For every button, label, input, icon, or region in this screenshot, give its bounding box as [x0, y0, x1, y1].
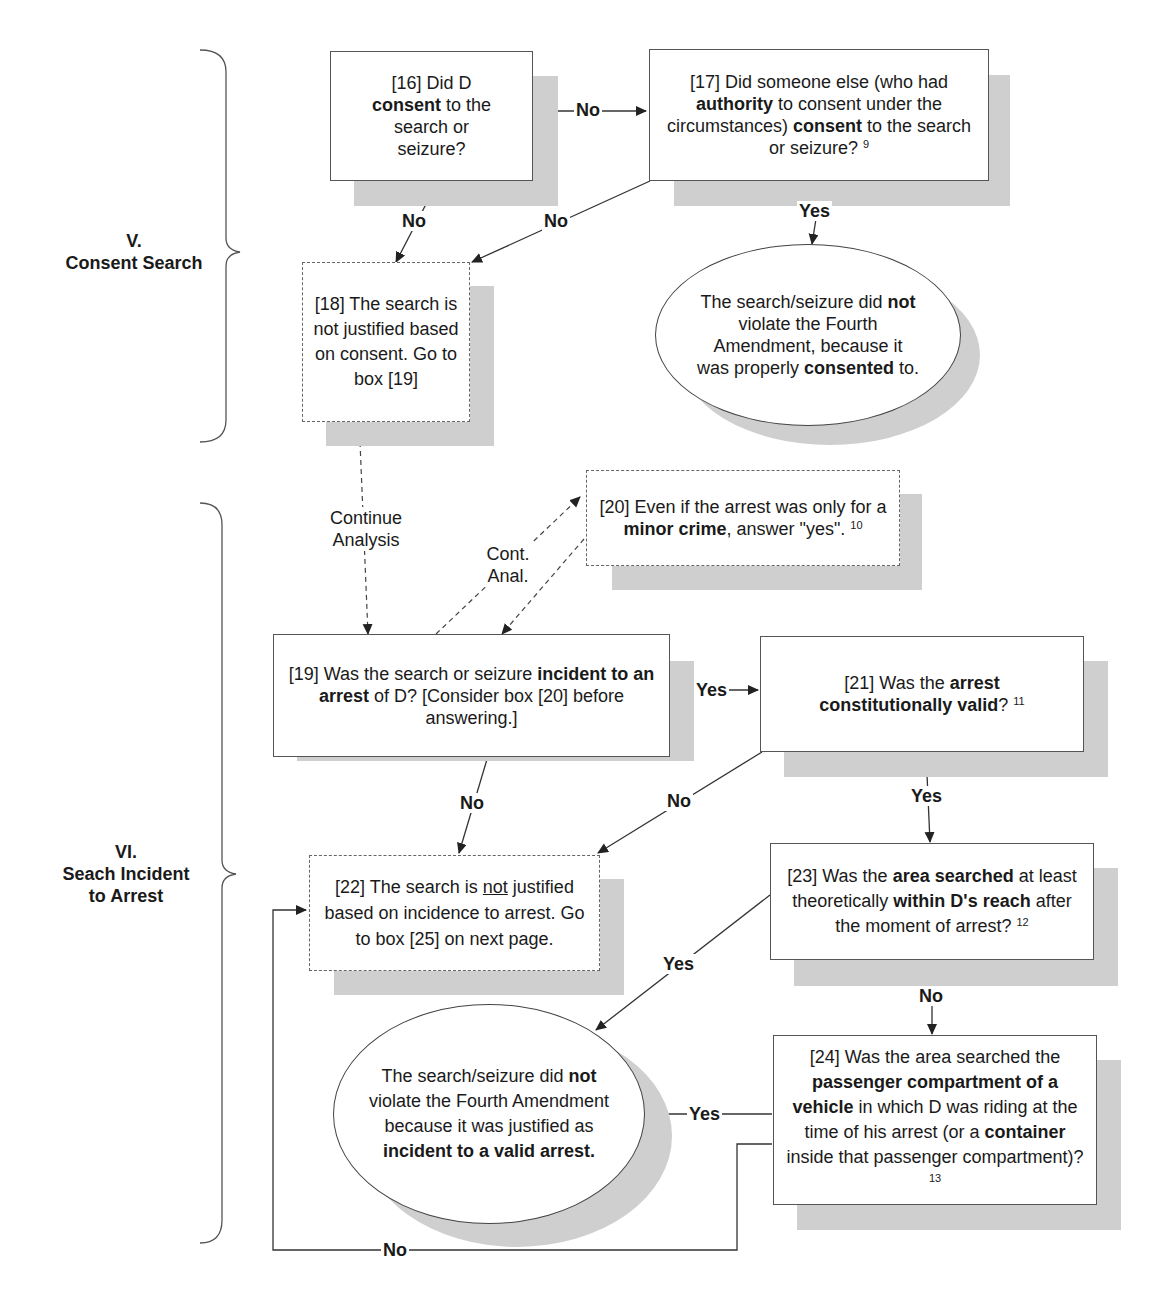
edge-label-21-22-no: No: [665, 791, 693, 811]
outcome-consent-bold-consented: consented: [804, 358, 894, 378]
outcome-arrest-ellipse: The search/seizure did not violate the F…: [333, 1004, 645, 1224]
box21-text-end: ?: [998, 695, 1013, 715]
box21-text: [21] Was the: [844, 673, 949, 693]
outcome-arrest-bold-valid-arrest: incident to a valid arrest.: [383, 1141, 595, 1161]
edge-label-17-outcome-yes: Yes: [797, 201, 832, 221]
section-vi-numeral: VI.: [36, 841, 216, 863]
outcome-consent-bold-not: not: [888, 292, 916, 312]
cont-text: Cont.: [478, 543, 538, 565]
outcome-arrest-text: The search/seizure did: [381, 1066, 568, 1086]
box24-text: [24] Was the area searched the: [810, 1047, 1060, 1067]
edge-label-18-19-continue: Continue Analysis: [316, 507, 416, 551]
box23-bold-area-searched: area searched: [893, 866, 1014, 886]
outcome-arrest-bold-not: not: [569, 1066, 597, 1086]
box17-text: [17] Did someone else (who had: [690, 72, 948, 92]
footnote-11: 11: [1013, 695, 1024, 707]
edge-label-24-outcome-yes: Yes: [687, 1104, 722, 1124]
node-box-19: [19] Was the search or seizure incident …: [273, 634, 670, 757]
section-v-label: V. Consent Search: [44, 230, 224, 274]
footnote-10: 10: [850, 519, 862, 531]
node-box-22: [22] The search is not justified based o…: [309, 855, 600, 971]
node-box-18: [18] The search is not justified based o…: [302, 262, 470, 422]
outcome-consent-text-end: to.: [894, 358, 919, 378]
box23-text: [23] Was the: [787, 866, 892, 886]
box16-bold: consent: [372, 95, 441, 115]
outcome-consent-text: The search/seizure did: [700, 292, 887, 312]
box19-text: [19] Was the search or seizure: [289, 664, 537, 684]
node-box-20: [20] Even if the arrest was only for a m…: [586, 470, 900, 566]
node-box-16: [16] Did D consent to the search or seiz…: [330, 51, 533, 181]
box22-text: [22] The search is: [335, 877, 483, 897]
node-box-21: [21] Was the arrest constitutionally val…: [760, 636, 1084, 752]
edge-label-16-18-no: No: [400, 211, 428, 231]
box17-bold-consent: consent: [793, 116, 862, 136]
edge-label-19-20-cont-anal: Cont. Anal.: [478, 543, 538, 587]
edge-label-19-22-no: No: [458, 793, 486, 813]
footnote-12: 12: [1016, 916, 1028, 928]
edge-label-19-21-yes: Yes: [694, 680, 729, 700]
box24-text-end: inside that passenger compartment)?: [786, 1147, 1083, 1167]
box20-text: [20] Even if the arrest was only for a: [599, 497, 886, 517]
box20-bold-minor-crime: minor crime: [623, 519, 726, 539]
section-vi-label: VI. Seach Incident to Arrest: [36, 841, 216, 907]
box17-bold-authority: authority: [696, 94, 773, 114]
section-vi-title-line2: to Arrest: [36, 885, 216, 907]
edge-label-21-23-yes: Yes: [909, 786, 944, 806]
edge-label-24-22-no: No: [381, 1240, 409, 1260]
edge-label-17-18-no: No: [542, 211, 570, 231]
box19-text-end: of D? [Consider box [20] before answerin…: [369, 686, 624, 728]
box20-text-end: , answer "yes".: [726, 519, 850, 539]
footnote-13: 13: [929, 1172, 941, 1184]
node-box-17: [17] Did someone else (who had authority…: [649, 49, 989, 181]
node-box-24: [24] Was the area searched the passenger…: [773, 1035, 1097, 1205]
edge-label-16-17-no: No: [574, 100, 602, 120]
box23-bold-within-reach: within D's reach: [893, 891, 1030, 911]
footnote-9: 9: [863, 138, 869, 150]
outcome-arrest-text-mid: violate the Fourth Amendment because it …: [369, 1091, 609, 1136]
section-v-title: Consent Search: [44, 252, 224, 274]
section-vi-title-line1: Seach Incident: [36, 863, 216, 885]
node-box-23: [23] Was the area searched at least theo…: [770, 843, 1094, 960]
edge-label-23-outcome-yes: Yes: [661, 954, 696, 974]
box18-text: [18] The search is not justified based o…: [313, 292, 459, 392]
anal-text: Anal.: [478, 565, 538, 587]
edge-label-23-24-no: No: [917, 986, 945, 1006]
continue-text: Continue: [316, 507, 416, 529]
box16-text: [16] Did D: [391, 73, 471, 93]
box24-bold-container: container: [985, 1122, 1066, 1142]
outcome-consent-ellipse: The search/seizure did not violate the F…: [655, 244, 961, 426]
section-v-numeral: V.: [44, 230, 224, 252]
box22-underline-not: not: [483, 877, 508, 897]
analysis-text: Analysis: [316, 529, 416, 551]
